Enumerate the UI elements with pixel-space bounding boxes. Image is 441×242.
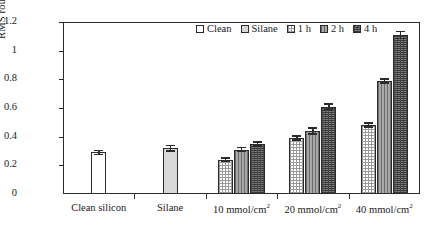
bars-layer	[63, 22, 420, 194]
bar	[289, 138, 304, 194]
y-axis-tick-label: 0.6	[0, 102, 17, 113]
bar	[305, 131, 320, 194]
y-axis-tick-mark	[59, 51, 63, 52]
error-bar	[221, 157, 230, 161]
legend-label: Clean	[207, 23, 232, 34]
bar	[377, 81, 392, 194]
error-bar-cap-top	[94, 150, 103, 152]
x-axis-tick-label: Silane	[134, 202, 205, 213]
error-bar-cap-bottom	[380, 82, 389, 84]
bar	[250, 144, 265, 194]
legend-label: Silane	[252, 23, 278, 34]
error-bar	[292, 135, 301, 141]
error-bar-cap-top	[237, 147, 246, 149]
error-bar	[253, 141, 262, 147]
error-bar-cap-top	[396, 31, 405, 33]
y-axis-tick-label: 1	[0, 45, 17, 56]
error-bar	[396, 31, 405, 40]
error-bar-cap-bottom	[396, 38, 405, 40]
chart-legend: CleanSilane1 h2 h4 h	[196, 23, 377, 34]
y-axis-tick-label: 1.2	[0, 16, 17, 27]
error-bar-cap-bottom	[237, 151, 246, 153]
legend-swatch	[241, 25, 249, 33]
bar	[321, 107, 336, 194]
error-bar-cap-top	[308, 127, 317, 129]
error-bar-cap-top	[166, 145, 175, 147]
error-bar-cap-bottom	[253, 145, 262, 147]
bar	[393, 35, 408, 194]
legend-label: 1 h	[298, 23, 311, 34]
error-bar-cap-bottom	[324, 109, 333, 111]
x-axis-tick-mark	[206, 194, 207, 199]
y-axis-tick-mark	[59, 79, 63, 80]
legend-swatch	[196, 25, 204, 33]
x-axis-tick-label: 20 mmol/cm2	[277, 202, 348, 215]
legend-label: 2 h	[331, 23, 344, 34]
error-bar-cap-bottom	[308, 133, 317, 135]
legend-item: Clean	[196, 23, 232, 34]
y-axis-tick-mark	[59, 108, 63, 109]
x-axis-tick-label: 40 mmol/cm2	[349, 202, 420, 215]
rms-roughness-bar-chart: RMS roughness (nm) 00.20.40.60.811.2 Cle…	[0, 0, 441, 242]
error-bar	[380, 78, 389, 84]
error-bar-cap-bottom	[292, 139, 301, 141]
error-bar-cap-bottom	[94, 154, 103, 156]
legend-item: 1 h	[287, 23, 311, 34]
legend-swatch	[287, 25, 295, 33]
legend-swatch	[353, 25, 361, 33]
error-bar-cap-bottom	[166, 150, 175, 152]
legend-item: 2 h	[320, 23, 344, 34]
y-axis-tick-mark	[59, 137, 63, 138]
bar	[163, 148, 178, 194]
error-bar	[94, 150, 103, 156]
error-bar	[166, 145, 175, 152]
legend-swatch	[320, 25, 328, 33]
y-axis-tick-label: 0.4	[0, 131, 17, 142]
bar	[91, 152, 106, 194]
error-bar-cap-top	[364, 122, 373, 124]
y-axis-tick-mark	[59, 165, 63, 166]
x-axis-tick-mark	[134, 194, 135, 199]
error-bar	[237, 147, 246, 153]
x-axis-tick-mark	[277, 194, 278, 199]
bar	[234, 150, 249, 194]
error-bar-cap-top	[324, 103, 333, 105]
error-bar-cap-bottom	[364, 126, 373, 128]
legend-item: Silane	[241, 23, 278, 34]
legend-label: 4 h	[364, 23, 377, 34]
x-axis-tick-label: 10 mmol/cm2	[206, 202, 277, 215]
y-axis-tick-label: 0	[0, 188, 17, 199]
error-bar	[364, 122, 373, 128]
error-bar-cap-top	[292, 135, 301, 137]
x-axis-tick-mark	[349, 194, 350, 199]
error-bar	[308, 127, 317, 134]
error-bar-cap-bottom	[221, 160, 230, 162]
error-bar-cap-top	[380, 78, 389, 80]
error-bar-cap-top	[253, 141, 262, 143]
y-axis-tick-label: 0.8	[0, 73, 17, 84]
x-axis-tick-label: Clean silicon	[63, 202, 134, 213]
bar	[218, 160, 233, 194]
error-bar	[324, 103, 333, 110]
error-bar-cap-top	[221, 157, 230, 159]
bar	[361, 125, 376, 194]
y-axis-tick-mark	[59, 22, 63, 23]
legend-item: 4 h	[353, 23, 377, 34]
y-axis-tick-label: 0.2	[0, 159, 17, 170]
